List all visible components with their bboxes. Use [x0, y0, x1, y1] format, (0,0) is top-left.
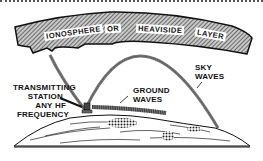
ground-waves-pointer: [120, 96, 128, 103]
sky-waves-label: SKY WAVES: [195, 63, 224, 81]
transmitting-station-label: TRANSMITTING STATION ANY HF FREQUENCY: [13, 83, 69, 119]
sky-waves-pointer: [197, 82, 202, 88]
terrain-patch-2: [162, 131, 174, 141]
terrain-patch-3: [187, 126, 201, 132]
terrain-patch-1: [107, 118, 137, 128]
transmitter-icon: [84, 103, 90, 110]
ground-waves-label: GROUND WAVES: [133, 86, 170, 104]
or-label: OR: [105, 23, 122, 33]
